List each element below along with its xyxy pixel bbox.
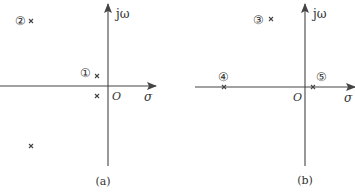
pole-1-cross-icon: [95, 74, 99, 78]
imag-axis-label-b: jω: [311, 7, 327, 21]
pole-label-2: ②: [15, 14, 26, 28]
real-axis-label-a: σ: [144, 90, 153, 104]
pole-plot-figure: jω σ O ① ② (a) jω σ O ③ ④: [0, 0, 355, 193]
pole-1-conjugate-cross-icon: [95, 94, 99, 98]
panel-b: jω σ O ③ ④ ⑤ (b): [195, 4, 355, 187]
pole-label-5: ⑤: [316, 70, 327, 84]
origin-label-a: O: [112, 90, 121, 103]
imag-axis-label-a: jω: [114, 7, 130, 21]
pole-label-3: ③: [253, 13, 264, 27]
real-axis-label-b: σ: [344, 91, 353, 105]
pole-label-1: ①: [80, 66, 91, 80]
origin-label-b: O: [293, 91, 302, 104]
pole-label-4: ④: [218, 70, 229, 84]
panel-a: jω σ O ① ② (a): [0, 4, 156, 188]
pole-3-cross-icon: [269, 17, 273, 21]
caption-a: (a): [95, 175, 110, 188]
pole-2-cross-icon: [29, 19, 33, 23]
pole-2-conjugate-cross-icon: [29, 144, 33, 148]
caption-b: (b): [297, 174, 313, 187]
